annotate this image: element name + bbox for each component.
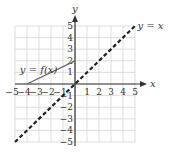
y-tick-label: 5 [67, 21, 73, 31]
x-tick-label: 4 [120, 87, 126, 97]
y-tick-label: −5 [60, 137, 74, 147]
x-axis-arrow-icon [140, 81, 147, 87]
function-graph: x y −5−4−3−2−112345 54321−1−2−3−4−5 y = … [0, 0, 169, 152]
series-annotation: y = x [136, 20, 163, 31]
y-tick-label: −3 [60, 114, 74, 124]
y-axis-label: y [71, 3, 78, 14]
x-tick-label: 1 [84, 87, 90, 97]
x-tick-label: 5 [132, 87, 138, 97]
y-tick-label: 3 [67, 44, 73, 54]
series-annotation: y = f(x) [19, 64, 58, 75]
y-tick-label: −4 [60, 125, 74, 135]
x-tick-label: 2 [96, 87, 102, 97]
x-tick-label: 3 [108, 87, 114, 97]
x-axis-label: x [150, 78, 156, 89]
y-tick-label: 1 [67, 67, 73, 77]
y-tick-label: 4 [67, 33, 73, 43]
y-tick-label: −2 [60, 102, 73, 112]
